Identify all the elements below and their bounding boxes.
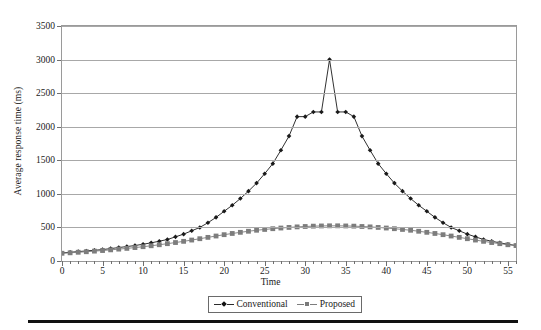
- diamond-marker: [457, 228, 462, 233]
- x-tick-mark-minor: [200, 261, 201, 264]
- diamond-marker: [181, 232, 186, 237]
- x-tick-label: 5: [83, 266, 123, 276]
- x-tick-mark-minor: [208, 261, 209, 264]
- x-tick-mark-minor: [159, 261, 160, 264]
- x-tick-label: 0: [42, 266, 82, 276]
- square-marker: [141, 244, 146, 249]
- x-tick-label: 10: [123, 266, 163, 276]
- legend-item-proposed[interactable]: Proposed: [297, 298, 355, 310]
- square-marker: [489, 240, 494, 245]
- x-tick-label: 35: [326, 266, 366, 276]
- square-marker: [481, 239, 486, 244]
- series-line: [62, 226, 516, 253]
- bottom-rule-divider: [28, 320, 518, 323]
- diamond-marker: [465, 232, 470, 237]
- square-marker: [116, 247, 121, 252]
- square-marker: [108, 247, 113, 252]
- x-tick-mark-minor: [176, 261, 177, 264]
- square-marker: [230, 231, 235, 236]
- square-marker: [165, 241, 170, 246]
- x-tick-mark-minor: [492, 261, 493, 264]
- square-marker: [133, 245, 138, 250]
- x-tick-mark-minor: [167, 261, 168, 264]
- square-marker: [497, 241, 502, 246]
- x-tick-mark-minor: [451, 261, 452, 264]
- square-marker: [197, 236, 202, 241]
- x-tick-mark-minor: [370, 261, 371, 264]
- x-tick-mark-minor: [321, 261, 322, 264]
- gridline: [62, 26, 516, 27]
- square-marker: [214, 234, 219, 239]
- diamond-marker: [368, 148, 373, 153]
- x-tick-label: 50: [447, 266, 487, 276]
- x-tick-mark-minor: [411, 261, 412, 264]
- x-tick-mark-minor: [362, 261, 363, 264]
- x-tick-mark-minor: [111, 261, 112, 264]
- square-marker: [416, 229, 421, 234]
- square-marker: [100, 248, 105, 253]
- x-tick-mark-minor: [475, 261, 476, 264]
- diamond-marker: [303, 114, 308, 119]
- gridline: [62, 93, 516, 94]
- gridline: [62, 160, 516, 161]
- diamond-marker: [311, 110, 316, 115]
- square-marker: [473, 238, 478, 243]
- diamond-marker: [165, 237, 170, 242]
- x-axis-title: Time: [0, 277, 541, 287]
- legend-label-conventional: Conventional: [235, 298, 288, 310]
- square-marker: [449, 234, 454, 239]
- x-tick-mark-minor: [281, 261, 282, 264]
- square-marker: [157, 242, 162, 247]
- square-marker: [254, 228, 259, 233]
- x-tick-mark-minor: [484, 261, 485, 264]
- square-marker: [433, 231, 438, 236]
- square-marker: [189, 238, 194, 243]
- x-tick-mark-minor: [403, 261, 404, 264]
- square-marker: [173, 240, 178, 245]
- square-marker: [92, 249, 97, 254]
- x-tick-mark-minor: [419, 261, 420, 264]
- chart-legend: Conventional Proposed: [208, 296, 362, 313]
- x-tick-mark-minor: [443, 261, 444, 264]
- y-axis-title: Average response time (ms): [9, 10, 27, 272]
- square-marker: [68, 250, 73, 255]
- square-marker: [514, 243, 516, 248]
- x-tick-mark-minor: [273, 261, 274, 264]
- diamond-marker: [319, 110, 324, 115]
- diamond-marker: [295, 114, 300, 119]
- diamond-marker: [441, 220, 446, 225]
- square-marker: [246, 229, 251, 234]
- diamond-marker: [343, 110, 348, 115]
- square-marker: [238, 230, 243, 235]
- x-tick-mark-minor: [330, 261, 331, 264]
- legend-item-conventional[interactable]: Conventional: [214, 298, 288, 310]
- square-marker: [441, 232, 446, 237]
- x-tick-mark-minor: [94, 261, 95, 264]
- gridline: [62, 194, 516, 195]
- diamond-marker: [287, 134, 292, 139]
- x-tick-label: 20: [204, 266, 244, 276]
- x-tick-mark-minor: [257, 261, 258, 264]
- diamond-marker: [173, 235, 178, 240]
- legend-line-icon: [310, 304, 317, 305]
- square-marker: [124, 246, 129, 251]
- gridline: [62, 227, 516, 228]
- x-tick-mark-minor: [248, 261, 249, 264]
- diamond-marker: [360, 134, 365, 139]
- diamond-marker: [206, 220, 211, 225]
- x-tick-mark-minor: [338, 261, 339, 264]
- x-tick-mark-minor: [500, 261, 501, 264]
- x-tick-mark-minor: [354, 261, 355, 264]
- x-tick-mark-minor: [394, 261, 395, 264]
- diamond-marker: [352, 114, 357, 119]
- x-tick-label: 25: [245, 266, 285, 276]
- x-tick-mark-minor: [516, 261, 517, 264]
- x-tick-mark-minor: [240, 261, 241, 264]
- square-marker: [424, 230, 429, 235]
- square-marker: [465, 236, 470, 241]
- plot-area: [61, 25, 517, 262]
- square-marker-icon: [305, 302, 310, 307]
- diamond-marker: [335, 110, 340, 115]
- x-tick-mark-minor: [459, 261, 460, 264]
- gridline: [62, 127, 516, 128]
